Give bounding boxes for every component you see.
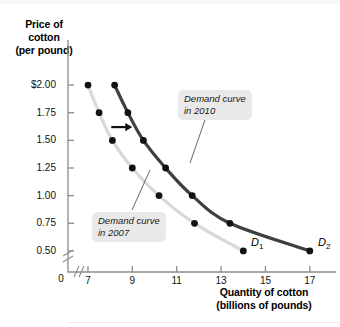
- data-point-d1: [85, 82, 92, 89]
- data-point-d1: [191, 220, 198, 227]
- curve-label-d1-sub: 1: [259, 242, 263, 251]
- x-tick-label: 11: [165, 275, 189, 286]
- x-tick-label: 15: [253, 275, 277, 286]
- data-point-d2: [306, 248, 313, 255]
- curve-label-d1: D1: [251, 236, 263, 251]
- data-point-d1: [96, 109, 103, 116]
- callout-demand-2010: Demand curve in 2010: [178, 90, 252, 120]
- data-point-d1: [109, 137, 116, 144]
- callout-demand-2007: Demand curve in 2007: [92, 212, 166, 242]
- curve-label-d1-text: D: [251, 236, 259, 248]
- x-tick-label: 17: [298, 275, 322, 286]
- callout-2010-leader: [190, 117, 206, 163]
- y-tick-label: $2.00: [8, 79, 56, 90]
- data-point-d2: [111, 82, 118, 89]
- curve-label-d2-text: D: [318, 236, 326, 248]
- data-point-d2: [140, 137, 147, 144]
- axis-corner: [68, 252, 78, 272]
- y-tick-label: 0.50: [8, 245, 56, 256]
- data-point-d2: [227, 220, 234, 227]
- data-point-d1: [156, 192, 163, 199]
- data-point-d1: [129, 165, 136, 172]
- y-tick-label: 1.25: [8, 162, 56, 173]
- curve-label-d2: D2: [318, 236, 330, 251]
- curve-label-d2-sub: 2: [326, 242, 330, 251]
- shift-arrow-head: [125, 123, 132, 131]
- y-tick-label: 1.00: [8, 190, 56, 201]
- data-point-d1: [240, 248, 247, 255]
- data-point-d2: [125, 109, 132, 116]
- data-point-d2: [162, 165, 169, 172]
- data-point-d2: [189, 192, 196, 199]
- y-tick-label: 1.50: [8, 134, 56, 145]
- demand-curve-figure: Price of cotton (per pound) Quantity of …: [0, 0, 340, 327]
- y-tick-label: 0.75: [8, 217, 56, 228]
- x-tick-label: 13: [209, 275, 233, 286]
- y-tick-label: 1.75: [8, 107, 56, 118]
- x-tick-label: 9: [120, 275, 144, 286]
- x-tick-label: 7: [76, 275, 100, 286]
